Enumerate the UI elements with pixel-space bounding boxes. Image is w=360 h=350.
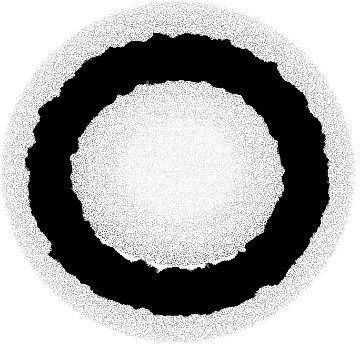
- center-speckle: [100, 108, 260, 232]
- ink-ring-artwork: [0, 0, 360, 350]
- ink-ring-image: [0, 0, 360, 350]
